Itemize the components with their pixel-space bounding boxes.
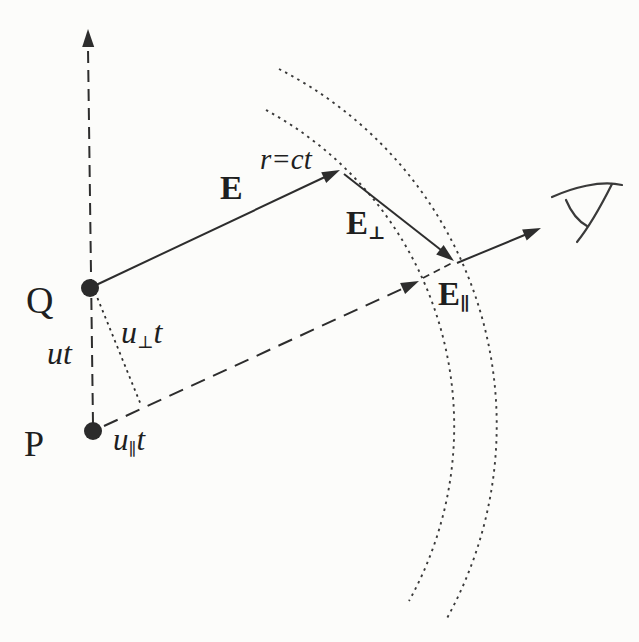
line-of-sight-dashed-line (104, 288, 404, 426)
e-par-base: E (438, 276, 460, 312)
wavefront-inner-arc (266, 110, 454, 601)
trajectory-dashed-line (88, 48, 93, 424)
label-u-par-t: u∥t (113, 424, 145, 455)
label-ut: ut (47, 337, 72, 369)
trajectory-arrowhead-icon (82, 29, 94, 47)
e-perp-base: E (346, 205, 368, 241)
u-perp-t-base: u (121, 314, 137, 350)
label-e-perp: E⊥ (346, 207, 385, 240)
e-field-vector-line (94, 176, 327, 286)
ut-text: ut (47, 335, 72, 371)
u-par-t-post: t (136, 422, 145, 457)
point-q-text: Q (26, 279, 53, 321)
accelerated-charge-radiation-diagram: Q P ut u⊥t u∥t E r=ct E⊥ E∥ (0, 0, 639, 642)
u-perp-t-post: t (154, 314, 163, 350)
point-p-text: P (24, 424, 44, 464)
u-par-t-base: u (113, 422, 129, 457)
label-e-field: E (220, 171, 243, 205)
r-equals-ct-text: r=ct (260, 143, 312, 175)
charge-dot-p (84, 422, 102, 440)
label-e-par: E∥ (438, 278, 470, 311)
e-perp-subscript: ⊥ (368, 223, 385, 243)
u-perp-t-subscript: ⊥ (137, 332, 154, 352)
charge-dot-q (81, 279, 99, 297)
label-u-perp-t: u⊥t (121, 316, 162, 348)
label-point-q: Q (26, 281, 53, 319)
e-field-arrowhead-icon (321, 170, 340, 183)
e-field-text: E (220, 169, 243, 206)
e-par-subscript: ∥ (460, 294, 470, 314)
label-r-equals-ct: r=ct (260, 145, 312, 174)
to-observer-vector-line (457, 234, 527, 263)
observer-eye-icon (552, 183, 622, 242)
line-of-sight-arrowhead-icon (400, 281, 419, 294)
label-point-p: P (24, 426, 44, 462)
diagram-canvas (0, 0, 639, 642)
to-observer-arrowhead-icon (522, 228, 541, 241)
